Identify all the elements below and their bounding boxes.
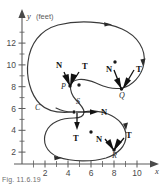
point-Q-label: Q [119, 91, 125, 100]
x-tick-label-2: 2 [43, 168, 48, 178]
point-Q-group: Q N T [106, 60, 142, 100]
point-R-normal-label: N [96, 134, 103, 144]
y-tick-label-4: 4 [11, 125, 16, 135]
y-tick-label-10: 10 [7, 60, 17, 70]
x-axis-label: x [154, 166, 159, 176]
figure-canvas: y (feet) x 2 4 6 8 10 12 2 4 6 8 10 [0, 0, 168, 186]
x-tick-label-8: 8 [112, 168, 117, 178]
point-S-group: S N T [72, 97, 108, 143]
axes-group [14, 9, 159, 168]
point-P-group: P N T [56, 60, 88, 91]
y-tick-label-6: 6 [11, 104, 16, 114]
point-R-group: R N T [96, 130, 132, 160]
point-P-normal-label: N [56, 60, 63, 70]
curve-C [28, 22, 145, 161]
x-tick-label-6: 6 [89, 168, 94, 178]
point-P-label: P [60, 82, 66, 91]
y-tick-label-12: 12 [7, 38, 17, 48]
curvature-center-P [77, 83, 80, 86]
y-tick-label-8: 8 [11, 82, 16, 92]
point-Q-tangent-arrowhead [123, 77, 132, 89]
y-axis-unit: (feet) [36, 12, 54, 21]
x-tick-label-4: 4 [66, 168, 71, 178]
point-Q-normal-label: N [106, 64, 113, 74]
point-S-tangent-label: T [73, 133, 79, 143]
x-tick-label-10: 10 [132, 168, 142, 178]
point-Q-normal-arrowhead [114, 78, 122, 89]
point-R-label: R [111, 151, 117, 160]
point-Q-tangent-label: T [136, 64, 142, 74]
y-axis-arrowhead [18, 9, 25, 18]
curvature-center-Q [113, 60, 116, 63]
point-R-tangent-label: T [126, 130, 132, 140]
y-axis-label: y [26, 11, 31, 21]
point-S-normal-arrowhead [90, 109, 98, 115]
point-S-tangent-arrowhead [74, 122, 80, 130]
curve-label-C: C [35, 103, 41, 112]
point-S-marker [72, 110, 75, 113]
figure-caption: Fig. 11.6.19 [2, 176, 41, 186]
point-S-normal-label: N [101, 107, 108, 117]
y-tick-label-2: 2 [11, 147, 16, 157]
curvature-center-S [89, 130, 92, 133]
point-P-tangent-label: T [82, 61, 88, 71]
point-S-label: S [76, 97, 80, 106]
